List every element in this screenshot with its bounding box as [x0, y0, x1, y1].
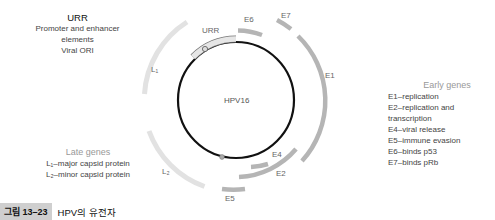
e7-arc — [277, 20, 291, 29]
e5-arc — [222, 189, 245, 190]
label-l1: L₁ — [151, 65, 158, 74]
hpv-genome-diagram: URR E6 E7 E1 E4 E2 E5 L₁ L₂ HPV16 — [0, 0, 495, 220]
center-label: HPV16 — [224, 96, 250, 105]
l2-arc — [149, 131, 205, 187]
genome-marker — [220, 155, 225, 160]
figure-caption: 그림 13–23 HPV의 유전자 — [0, 203, 116, 220]
label-e7: E7 — [281, 11, 291, 20]
e1-arc — [298, 36, 325, 161]
label-e5: E5 — [225, 194, 235, 203]
label-e1: E1 — [325, 71, 335, 80]
ori-marker — [202, 46, 207, 51]
e4-arc — [251, 164, 268, 167]
figure-number: 그림 13–23 — [0, 203, 52, 220]
caption-text: HPV의 유전자 — [58, 205, 116, 219]
label-e2: E2 — [276, 169, 286, 178]
label-l2: L₂ — [162, 167, 170, 176]
label-e6: E6 — [244, 15, 254, 24]
urr-box-fill — [193, 39, 236, 57]
e6-arc — [238, 31, 262, 36]
label-urr: URR — [202, 26, 220, 35]
label-e4: E4 — [272, 150, 282, 159]
